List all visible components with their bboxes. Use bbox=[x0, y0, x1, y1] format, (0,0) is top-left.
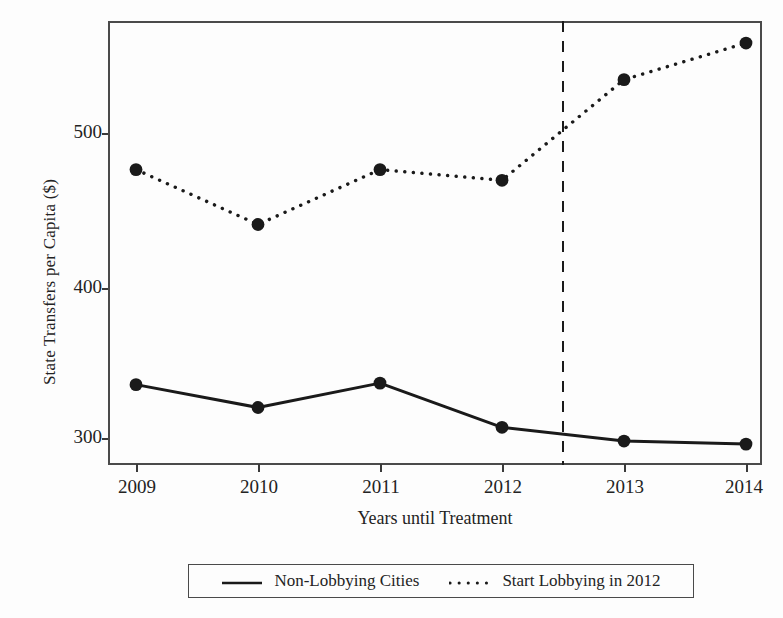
x-tick-mark-2014 bbox=[746, 464, 748, 472]
x-tick-mark-2012 bbox=[502, 464, 504, 472]
x-tick-label-2010: 2010 bbox=[219, 476, 299, 498]
data-point bbox=[740, 438, 753, 451]
x-axis-title: Years until Treatment bbox=[108, 508, 762, 529]
data-point bbox=[618, 73, 631, 86]
y-tick-label-400: 400 bbox=[56, 277, 102, 296]
x-tick-mark-2011 bbox=[380, 464, 382, 472]
x-tick-mark-2010 bbox=[258, 464, 260, 472]
plot-area bbox=[108, 21, 762, 465]
data-point bbox=[496, 174, 509, 187]
legend-swatch-dotted-line-icon bbox=[449, 575, 491, 587]
data-point bbox=[618, 435, 631, 448]
data-point bbox=[740, 37, 753, 50]
x-tick-label-2009: 2009 bbox=[97, 476, 177, 498]
legend-label-start-lobbying: Start Lobbying in 2012 bbox=[502, 571, 660, 591]
x-tick-mark-2013 bbox=[624, 464, 626, 472]
y-tick-label-300: 300 bbox=[56, 427, 102, 446]
legend-label-non-lobbying: Non-Lobbying Cities bbox=[274, 571, 419, 591]
legend-entry-non-lobbying: Non-Lobbying Cities bbox=[221, 571, 419, 591]
x-tick-label-2011: 2011 bbox=[341, 476, 421, 498]
series-line-0 bbox=[136, 383, 746, 444]
chart-legend: Non-Lobbying Cities Start Lobbying in 20… bbox=[188, 564, 694, 598]
data-point bbox=[496, 421, 509, 434]
chart-figure: State Transfers per Capita ($) 500 400 3… bbox=[0, 0, 783, 618]
legend-swatch-solid-line-icon bbox=[221, 575, 263, 587]
data-point bbox=[374, 163, 387, 176]
data-point bbox=[252, 401, 265, 414]
data-point bbox=[374, 377, 387, 390]
x-tick-mark-2009 bbox=[136, 464, 138, 472]
x-tick-label-2012: 2012 bbox=[463, 476, 543, 498]
x-tick-label-2014: 2014 bbox=[704, 476, 783, 498]
x-tick-label-2013: 2013 bbox=[585, 476, 665, 498]
y-tick-label-500: 500 bbox=[56, 122, 102, 141]
data-point bbox=[130, 163, 143, 176]
series-line-1 bbox=[136, 43, 746, 224]
legend-entry-start-lobbying: Start Lobbying in 2012 bbox=[449, 571, 660, 591]
data-point bbox=[130, 378, 143, 391]
data-point bbox=[252, 218, 265, 231]
